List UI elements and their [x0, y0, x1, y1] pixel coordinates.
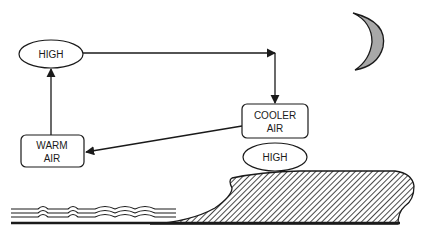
high-pressure-upper: HIGH — [19, 40, 83, 68]
land-breeze-diagram: HIGH COOLER AIR HIGH WARM AIR — [0, 0, 424, 238]
arrow-high-to-cooler — [83, 53, 275, 103]
warm-air-line2: AIR — [44, 153, 61, 164]
water-surface — [11, 207, 176, 218]
warm-air-line1: WARM — [36, 140, 67, 151]
warm-air-box: WARM AIR — [21, 135, 84, 167]
arrow-cooler-to-warm — [86, 126, 242, 152]
high-lower-label: HIGH — [263, 152, 288, 163]
crescent-moon-icon — [353, 13, 384, 70]
land-mass — [150, 171, 414, 224]
cooler-air-line2: AIR — [267, 123, 284, 134]
high-pressure-lower: HIGH — [243, 143, 307, 171]
cooler-air-line1: COOLER — [254, 110, 296, 121]
high-upper-label: HIGH — [39, 49, 64, 60]
cooler-air-box: COOLER AIR — [242, 104, 308, 138]
